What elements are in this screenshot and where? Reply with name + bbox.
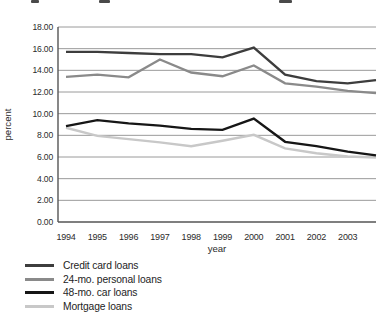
- legend-item: Credit card loans: [25, 259, 162, 273]
- x-tick-label: 2001: [275, 232, 294, 242]
- legend-label: Mortgage loans: [63, 301, 132, 312]
- y-tick-label: 14.00: [32, 65, 53, 75]
- y-tick-label: 18.00: [32, 22, 53, 32]
- y-tick-label: 6.00: [37, 152, 53, 162]
- series-line-24-mo-personal-loans: [66, 60, 376, 94]
- legend-label: 48-mo. car loans: [63, 287, 137, 298]
- legend-line-swatch: [25, 291, 54, 294]
- legend-item: 24-mo. personal loans: [25, 273, 162, 287]
- x-tick-label: 1996: [119, 232, 138, 242]
- x-tick-label: 2000: [244, 232, 263, 242]
- y-tick-label: 16.00: [32, 44, 53, 54]
- y-tick-label: 4.00: [37, 174, 53, 184]
- legend-line-swatch: [25, 278, 54, 281]
- series-line-mortgage-loans: [66, 128, 376, 158]
- x-tick-label: 1998: [182, 232, 201, 242]
- y-tick-label: 10.00: [32, 109, 53, 119]
- y-tick-label: 8.00: [37, 130, 53, 140]
- legend-item: 48-mo. car loans: [25, 286, 162, 300]
- y-tick-label: 12.00: [32, 87, 53, 97]
- chart-legend: Credit card loans 24-mo. personal loans …: [25, 259, 162, 313]
- legend-label: Credit card loans: [63, 260, 138, 271]
- legend-line-swatch: [25, 264, 54, 267]
- x-tick-label: 1994: [56, 232, 75, 242]
- legend-line-swatch: [25, 305, 54, 308]
- x-axis-title: year: [208, 243, 227, 254]
- loan-interest-rates-figure: 18.0016.0014.0012.0010.008.006.004.002.0…: [0, 0, 382, 322]
- x-tick-label: 1997: [150, 232, 169, 242]
- x-tick-label: 2002: [307, 232, 326, 242]
- y-axis-title: percent: [2, 108, 13, 140]
- series-line-credit-card-loans: [66, 48, 376, 84]
- legend-item: Mortgage loans: [25, 300, 162, 314]
- x-tick-label: 1995: [88, 232, 107, 242]
- y-tick-label: 2.00: [37, 195, 53, 205]
- x-tick-label: 1999: [213, 232, 232, 242]
- legend-label: 24-mo. personal loans: [63, 274, 162, 285]
- x-tick-label: 2003: [338, 232, 357, 242]
- loan-rates-line-chart: 18.0016.0014.0012.0010.008.006.004.002.0…: [0, 0, 382, 256]
- y-tick-label: 0.00: [37, 217, 53, 227]
